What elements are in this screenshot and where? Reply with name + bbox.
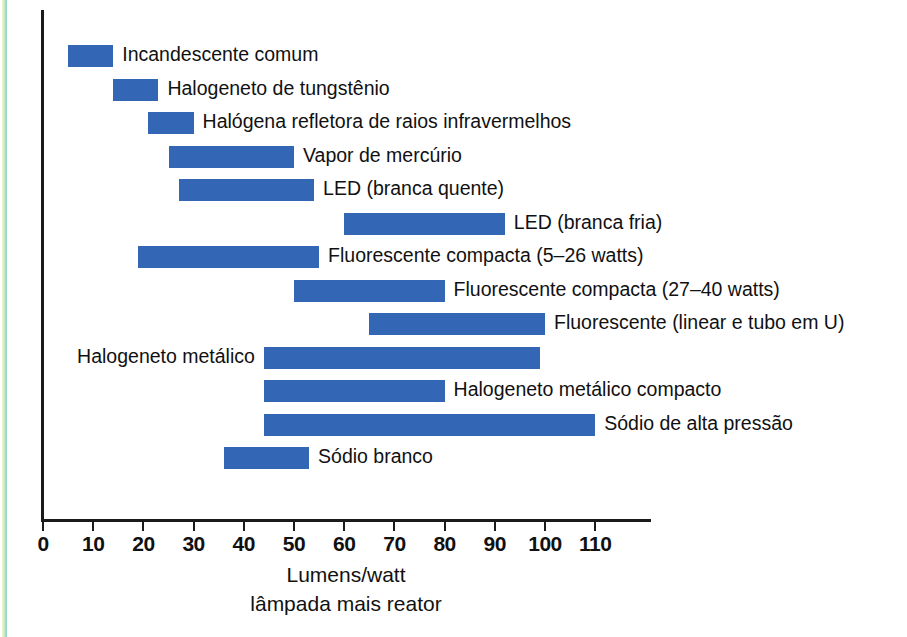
x-tick-90 bbox=[494, 522, 496, 531]
bar-range bbox=[264, 414, 595, 436]
bar-label: Fluorescente (linear e tubo em U) bbox=[554, 311, 844, 333]
x-tick-label-60: 60 bbox=[333, 532, 355, 556]
x-axis-title-line-2: lâmpada mais reator bbox=[41, 589, 651, 618]
bar-row: Sódio branco bbox=[224, 447, 309, 469]
x-tick-70 bbox=[393, 522, 395, 531]
bar-range bbox=[294, 280, 445, 302]
x-tick-label-110: 110 bbox=[579, 532, 611, 556]
bar-label: Vapor de mercúrio bbox=[303, 144, 462, 166]
bar-label: LED (branca fria) bbox=[514, 211, 662, 233]
bar-label: LED (branca quente) bbox=[323, 177, 504, 199]
x-axis-line bbox=[41, 519, 651, 522]
bar-range bbox=[148, 112, 193, 134]
bar-range bbox=[169, 146, 295, 168]
bar-row: Halogeneto de tungstênio bbox=[113, 79, 158, 101]
bar-row: LED (branca fria) bbox=[344, 213, 505, 235]
x-tick-60 bbox=[343, 522, 345, 531]
bar-row: Halógena refletora de raios infravermelh… bbox=[148, 112, 193, 134]
x-tick-50 bbox=[293, 522, 295, 531]
bar-label: Sódio de alta pressão bbox=[604, 412, 793, 434]
x-tick-label-100: 100 bbox=[528, 532, 562, 556]
bar-range bbox=[179, 179, 315, 201]
x-tick-label-0: 0 bbox=[37, 532, 48, 556]
x-tick-label-70: 70 bbox=[383, 532, 405, 556]
bar-label: Sódio branco bbox=[318, 445, 433, 467]
bar-row: Fluorescente (linear e tubo em U) bbox=[369, 313, 545, 335]
chart-plot-area: 0102030405060708090100110 Incandescente … bbox=[0, 0, 907, 637]
x-tick-80 bbox=[444, 522, 446, 531]
bar-label: Incandescente comum bbox=[122, 43, 318, 65]
bar-row: LED (branca quente) bbox=[179, 179, 315, 201]
bar-row: Halogeneto metálico compacto bbox=[264, 380, 445, 402]
x-tick-0 bbox=[42, 522, 44, 531]
bar-range bbox=[264, 347, 540, 369]
bar-range bbox=[113, 79, 158, 101]
x-tick-30 bbox=[193, 522, 195, 531]
bar-label: Fluorescente compacta (5–26 watts) bbox=[328, 244, 643, 266]
x-tick-100 bbox=[544, 522, 546, 531]
bar-row: Incandescente comum bbox=[68, 45, 113, 67]
bar-range bbox=[68, 45, 113, 67]
x-tick-label-10: 10 bbox=[82, 532, 104, 556]
x-tick-10 bbox=[92, 522, 94, 531]
bar-row: Halogeneto metálico bbox=[264, 347, 540, 369]
x-tick-label-50: 50 bbox=[283, 532, 305, 556]
bar-label: Halogeneto metálico bbox=[77, 345, 255, 367]
bar-range bbox=[369, 313, 545, 335]
bar-label: Halogeneto de tungstênio bbox=[167, 77, 389, 99]
bar-row: Fluorescente compacta (5–26 watts) bbox=[138, 246, 319, 268]
x-tick-label-80: 80 bbox=[433, 532, 455, 556]
bar-row: Vapor de mercúrio bbox=[169, 146, 295, 168]
y-axis-line bbox=[41, 10, 44, 522]
bar-range bbox=[264, 380, 445, 402]
bar-range bbox=[224, 447, 309, 469]
x-tick-40 bbox=[243, 522, 245, 531]
bar-row: Sódio de alta pressão bbox=[264, 414, 595, 436]
x-tick-label-20: 20 bbox=[132, 532, 154, 556]
bar-label: Halogeneto metálico compacto bbox=[454, 378, 722, 400]
bar-label: Halógena refletora de raios infravermelh… bbox=[203, 110, 572, 132]
bar-row: Fluorescente compacta (27–40 watts) bbox=[294, 280, 445, 302]
bar-label: Fluorescente compacta (27–40 watts) bbox=[454, 278, 780, 300]
x-tick-110 bbox=[594, 522, 596, 531]
bar-range bbox=[344, 213, 505, 235]
x-axis-title: Lumens/watt lâmpada mais reator bbox=[41, 560, 651, 618]
x-tick-label-30: 30 bbox=[182, 532, 204, 556]
bar-range bbox=[138, 246, 319, 268]
x-tick-label-40: 40 bbox=[233, 532, 255, 556]
x-tick-label-90: 90 bbox=[484, 532, 506, 556]
chart-page: 0102030405060708090100110 Incandescente … bbox=[0, 0, 907, 637]
x-tick-20 bbox=[142, 522, 144, 531]
x-axis-title-line-1: Lumens/watt bbox=[41, 560, 651, 589]
